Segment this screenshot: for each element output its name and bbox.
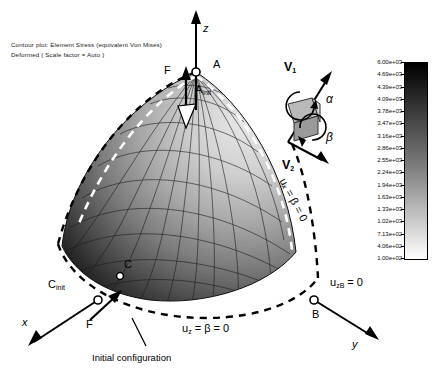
colorbar-tick-mark [401, 209, 404, 210]
colorbar-tick-label: 1.33e+03 [377, 205, 402, 212]
colorbar-tick-mark [401, 160, 404, 161]
node-marker-a [192, 68, 200, 76]
colorbar-tick-mark [401, 234, 404, 235]
bc-uz-rest: = β = 0 [195, 322, 229, 334]
colorbar-tick-label: 3.47e+03 [377, 119, 402, 126]
bc-uz-sub: z [188, 328, 192, 335]
colorbar-tick-label: 3.78e+03 [377, 107, 402, 114]
colorbar-tick-mark [401, 123, 404, 124]
colorbar-tick-mark [401, 185, 404, 186]
bc-label-uz-beta: uz = β = 0 [182, 322, 229, 335]
colorbar-tick-mark [401, 172, 404, 173]
caption-initial-configuration: Initial configuration [92, 352, 171, 363]
vector-diagram [286, 71, 332, 164]
colorbar-tick-label: 4.06e+02 [377, 242, 402, 249]
colorbar-tick-label: 2.86e+03 [377, 144, 402, 151]
vector-v1-sub: 1 [292, 67, 296, 74]
colorbar-tick-mark [401, 74, 404, 75]
colorbar-tick-mark [401, 197, 404, 198]
vector-v2-sub: 2 [290, 165, 294, 172]
vector-label-v2: V2 [282, 158, 294, 172]
colorbar-tick-label: 1.94e+03 [377, 181, 402, 188]
node-marker-c [117, 273, 124, 280]
colorbar-ticks: 6.00e+034.69e+034.39e+034.09e+033.78e+03… [360, 56, 404, 264]
colorbar-tick-label: 4.39e+03 [377, 83, 402, 90]
colorbar-tick-label: 3.16e+03 [377, 132, 402, 139]
node-label-c-init-sub: init [56, 284, 65, 291]
colorbar-tick-mark [401, 99, 404, 100]
node-label-c-init: Cinit [48, 278, 65, 291]
colorbar-tick-label: 1.63e+03 [377, 193, 402, 200]
colorbar-gradient [404, 62, 428, 260]
node-label-a: A [213, 58, 220, 70]
colorbar-tick-mark [401, 221, 404, 222]
colorbar-tick-label: 1.00e+02 [377, 254, 402, 261]
colorbar-tick-mark [401, 258, 404, 259]
colorbar-tick-mark [401, 246, 404, 247]
colorbar-tick-label: 7.13e+02 [377, 230, 402, 237]
force-label-base: F [86, 318, 93, 330]
bc-label-uzb: uzB = 0 [330, 276, 363, 289]
colorbar-tick-label: 6.00e+03 [377, 58, 402, 65]
axis-label-z: z [203, 22, 209, 34]
colorbar-tick-mark [401, 111, 404, 112]
colorbar-tick-mark [401, 62, 404, 63]
angle-label-alpha: α [326, 92, 333, 106]
colorbar-tick-label: 4.69e+03 [377, 70, 402, 77]
angle-label-beta: β [326, 130, 333, 144]
colorbar-tick-mark [401, 148, 404, 149]
force-label-apex: F [164, 64, 171, 76]
node-label-a-init: Ainit [195, 83, 211, 96]
colorbar-tick-label: 1.02e+03 [377, 217, 402, 224]
colorbar-tick-label: 2.24e+03 [377, 168, 402, 175]
caption-leader-line [132, 318, 146, 346]
node-marker-c-init [94, 296, 102, 304]
bc-uzb-sub: zB [336, 282, 344, 289]
colorbar-tick-label: 4.09e+03 [377, 95, 402, 102]
colorbar-tick-label: 2.55e+03 [377, 156, 402, 163]
node-label-a-init-sub: init [202, 89, 211, 96]
colorbar-tick-mark [401, 87, 404, 88]
node-marker-b [310, 296, 318, 304]
vector-label-v1: V1 [284, 60, 296, 74]
axis-y [314, 300, 379, 340]
axis-label-y: y [352, 338, 358, 350]
colorbar-tick-mark [401, 136, 404, 137]
axis-label-x: x [22, 316, 28, 328]
bc-uzb-rest: = 0 [347, 276, 363, 288]
node-label-b: B [312, 308, 319, 320]
node-label-c: C [124, 258, 132, 270]
figure-canvas: Contour plot: Element Stress (equivalent… [0, 0, 440, 383]
node-label-c-init-main: C [48, 278, 56, 290]
